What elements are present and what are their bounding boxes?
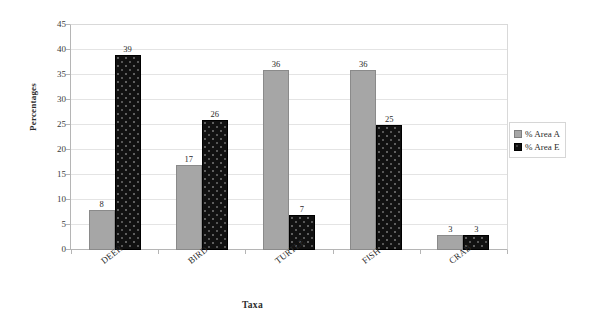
x-tick-mark bbox=[507, 250, 508, 254]
bar-value-label: 26 bbox=[211, 110, 220, 119]
bar-fish-series-2[interactable]: 25 bbox=[376, 125, 402, 250]
bar-bird-series-2[interactable]: 26 bbox=[202, 120, 228, 250]
y-tick-label: 20 bbox=[40, 145, 66, 154]
bar-turtle-series-1[interactable]: 36 bbox=[263, 70, 289, 250]
bar-deer-series-1[interactable]: 8 bbox=[89, 210, 115, 250]
y-tick-label: 30 bbox=[40, 95, 66, 104]
bar-value-label: 36 bbox=[359, 60, 368, 69]
y-tick-label: 45 bbox=[40, 20, 66, 29]
legend-swatch-icon bbox=[514, 143, 522, 151]
bar-value-label: 3 bbox=[474, 225, 478, 234]
x-tick-mark bbox=[158, 250, 159, 254]
y-tick-label: 5 bbox=[40, 220, 66, 229]
y-tick-label: 40 bbox=[40, 45, 66, 54]
bar-value-label: 17 bbox=[185, 155, 194, 164]
bar-group: 3625 bbox=[333, 25, 420, 250]
bar-value-label: 8 bbox=[99, 200, 103, 209]
bar-group: 367 bbox=[245, 25, 332, 250]
bar-value-label: 39 bbox=[123, 45, 132, 54]
y-tick-label: 10 bbox=[40, 195, 66, 204]
legend-label: % Area E bbox=[525, 142, 559, 152]
bar-group: 1726 bbox=[158, 25, 245, 250]
legend-label: % Area A bbox=[525, 129, 560, 139]
legend-item-1[interactable]: % Area A bbox=[514, 127, 560, 140]
y-tick-label: 15 bbox=[40, 170, 66, 179]
bar-group: 33 bbox=[420, 25, 507, 250]
x-axis-title: Taxa bbox=[0, 300, 505, 310]
bar-deer-series-2[interactable]: 39 bbox=[115, 55, 141, 250]
x-tick-mark bbox=[245, 250, 246, 254]
bar-chart: Percentages 051015202530354045 839172636… bbox=[0, 0, 601, 328]
bar-bird-series-1[interactable]: 17 bbox=[176, 165, 202, 250]
bar-value-label: 3 bbox=[448, 225, 452, 234]
x-tick-mark bbox=[420, 250, 421, 254]
chart-legend: % Area A% Area E bbox=[509, 122, 566, 158]
bars-layer: 8391726367362533 bbox=[71, 25, 507, 250]
y-tick-label: 25 bbox=[40, 120, 66, 129]
y-tick-label: 35 bbox=[40, 70, 66, 79]
x-tick-mark bbox=[71, 250, 72, 254]
bar-fish-series-1[interactable]: 36 bbox=[350, 70, 376, 250]
legend-item-2[interactable]: % Area E bbox=[514, 140, 560, 153]
y-axis-ticks: 051015202530354045 bbox=[36, 24, 66, 250]
bar-value-label: 36 bbox=[272, 60, 281, 69]
y-tick-label: 0 bbox=[40, 245, 66, 254]
bar-value-label: 7 bbox=[300, 205, 304, 214]
bar-group: 839 bbox=[71, 25, 158, 250]
bar-value-label: 25 bbox=[385, 115, 394, 124]
x-tick-mark bbox=[333, 250, 334, 254]
legend-swatch-icon bbox=[514, 130, 522, 138]
